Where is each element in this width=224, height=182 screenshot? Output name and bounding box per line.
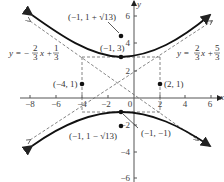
svg-text:3: 3 [33, 52, 38, 62]
hyperbola-graph: −8 −6 −4 −2 0 2 4 6 x 6 4 2 −2 −4 −6 (−1… [0, 0, 224, 182]
svg-text:3: 3 [215, 52, 220, 62]
co-vertex-right-label: (2, 1) [164, 79, 184, 89]
y-tick-label: 2 [126, 66, 131, 76]
leader-line [108, 22, 119, 33]
x-axis-label: x [219, 92, 224, 102]
y-tick-label: 6 [126, 11, 131, 21]
co-vertex-left-label: (−4, 1) [53, 79, 78, 89]
focus-bottom-point [119, 124, 124, 129]
svg-text:y =: y = [176, 48, 189, 58]
focus-bottom-label: (−1, 1 − √13) [69, 131, 117, 141]
svg-text:3: 3 [54, 52, 59, 62]
x-tick-label: −2 [101, 99, 111, 109]
co-vertex-left-point [80, 82, 85, 87]
focus-top-point [119, 34, 124, 39]
y-axis-label: y [136, 0, 141, 9]
svg-text:y = −: y = − [8, 48, 30, 58]
y-tick-label: −4 [120, 147, 130, 157]
vertex-bottom-label: (−1, −1) [141, 128, 171, 138]
svg-text:x +: x + [200, 48, 213, 58]
x-tick-label: −6 [51, 99, 61, 109]
co-vertex-right-point [158, 82, 163, 87]
asymptote-right-equation: y = 2 3 x + 5 3 [176, 43, 220, 62]
x-tick-label: 6 [208, 99, 213, 109]
y-tick-label: −6 [120, 173, 130, 182]
x-tick-label: 0 [128, 99, 133, 109]
fundamental-rectangle [82, 57, 160, 112]
vertex-top-label: (−1, 3) [100, 43, 125, 53]
x-tick-label: −8 [25, 99, 35, 109]
svg-text:3: 3 [195, 52, 200, 62]
y-tick-label: 4 [126, 38, 131, 48]
asymptote-left-equation: y = − 2 3 x + 1 3 [8, 43, 59, 62]
svg-text:x +: x + [39, 48, 52, 58]
vertex-top-point [119, 55, 124, 60]
focus-top-label: (−1, 1 + √13) [68, 12, 116, 22]
vertex-bottom-point [119, 110, 124, 115]
x-tick-label: 4 [183, 99, 188, 109]
